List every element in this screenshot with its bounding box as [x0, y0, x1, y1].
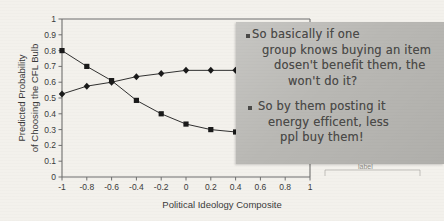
data-point-diamond [208, 67, 214, 74]
data-point-diamond [183, 67, 189, 74]
y-axis-title-line2: of Choosing the CFL Bulb [29, 44, 40, 152]
underlying-bracket [325, 170, 420, 176]
data-point-square [84, 64, 89, 69]
y-axis-title-line1: Predicted Probability [16, 54, 27, 141]
y-tick-label: 0.4 [44, 109, 56, 119]
note-line: energy efficent, less [258, 115, 389, 131]
note-line: ppl buy them! [258, 130, 389, 146]
y-tick-label: 0 [51, 172, 56, 182]
x-tick-label: -0.6 [104, 182, 119, 192]
handwritten-sticky-note: So basically if one group knows buying a… [236, 22, 444, 164]
y-tick-label: 0.8 [44, 46, 56, 56]
y-tick-label: 0.2 [44, 140, 56, 150]
x-tick-label: 0 [184, 182, 189, 192]
x-tick-label: 0.4 [230, 182, 242, 192]
data-point-square [59, 48, 64, 53]
note-line: dosen't benefit them, the [252, 58, 431, 74]
x-tick-label: 0.8 [279, 182, 291, 192]
x-tick-label: -0.4 [129, 182, 144, 192]
x-tick-labels: -1-0.8-0.6-0.4-0.200.20.40.60.81 [58, 182, 312, 192]
note-bullet-marker-1 [246, 34, 250, 38]
note-line: won't do it? [252, 74, 431, 90]
x-tick-label: 1 [308, 182, 313, 192]
underlying-label-text: label [358, 163, 373, 170]
data-point-diamond [158, 70, 164, 77]
y-tick-label: 0.9 [44, 30, 56, 40]
series-line-rising-series [62, 70, 236, 94]
x-tick-label: -0.2 [154, 182, 169, 192]
x-tick-label: 0.2 [205, 182, 217, 192]
data-point-diamond [133, 73, 139, 80]
note-line: group knows buying an item [252, 43, 431, 59]
note-line: So basically if one [252, 27, 431, 43]
data-point-square [183, 121, 188, 126]
data-point-square [134, 98, 139, 103]
y-tick-label: 0.1 [44, 156, 56, 166]
x-tick-label: 0.6 [254, 182, 266, 192]
x-axis-title: Political Ideology Composite [162, 199, 281, 210]
y-tick-label: 1 [51, 14, 56, 24]
figure-container: 00.10.20.30.40.50.60.70.80.91 -1-0.8-0.6… [0, 0, 444, 221]
note-bullet-2-text: So by them posting it energy efficent, l… [258, 99, 389, 146]
note-line: So by them posting it [258, 99, 389, 115]
y-tick-label: 0.6 [44, 77, 56, 87]
data-point-square [159, 111, 164, 116]
x-tick-label: -0.8 [79, 182, 94, 192]
series-line-declining-series [62, 51, 236, 132]
data-point-square [208, 127, 213, 132]
note-bullet-marker-2 [248, 106, 252, 110]
y-tick-label: 0.5 [44, 93, 56, 103]
y-tick-label: 0.7 [44, 61, 56, 71]
x-tick-label: -1 [58, 182, 66, 192]
data-point-diamond [59, 91, 65, 98]
y-tick-label: 0.3 [44, 125, 56, 135]
y-tick-labels: 00.10.20.30.40.50.60.70.80.91 [44, 14, 56, 182]
series-group [59, 48, 239, 135]
note-bullet-1-text: So basically if one group knows buying a… [252, 27, 431, 89]
data-point-diamond [84, 83, 90, 90]
